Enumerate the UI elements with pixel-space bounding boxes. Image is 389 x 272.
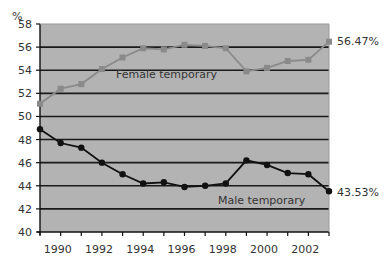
female-end-value: 56.47% (337, 35, 379, 48)
dot-marker-icon (99, 159, 105, 165)
x-axis-ticks: 1990199219941996199820002002 (40, 232, 329, 256)
dot-marker-icon (243, 157, 249, 163)
square-marker-icon (120, 55, 126, 61)
x-tick-label: 1990 (44, 243, 72, 256)
y-tick-label: 42 (18, 203, 32, 216)
square-marker-icon (182, 42, 188, 48)
square-marker-icon (140, 45, 146, 51)
y-tick-label: 50 (18, 110, 32, 123)
x-tick-label: 1998 (209, 243, 237, 256)
y-tick-label: 40 (18, 226, 32, 239)
dot-marker-icon (223, 180, 229, 186)
male-end-value: 43.53% (337, 186, 379, 199)
dot-marker-icon (161, 179, 167, 185)
y-tick-label: 48 (18, 134, 32, 147)
square-marker-icon (264, 65, 270, 71)
dot-marker-icon (181, 184, 187, 190)
y-tick-label: 46 (18, 157, 32, 170)
dot-marker-icon (305, 171, 311, 177)
y-tick-label: 44 (18, 180, 32, 193)
dot-marker-icon (57, 140, 63, 146)
x-tick-label: 1992 (85, 243, 113, 256)
y-tick-label: 52 (18, 87, 32, 100)
square-marker-icon (305, 57, 311, 63)
y-axis-ticks: 40424446485052545658 (18, 18, 40, 239)
square-marker-icon (161, 46, 167, 52)
y-tick-label: 54 (18, 64, 32, 77)
dot-marker-icon (119, 171, 125, 177)
dot-marker-icon (202, 183, 208, 189)
square-marker-icon (78, 81, 84, 87)
x-tick-label: 1996 (168, 243, 196, 256)
x-tick-label: 2000 (250, 243, 278, 256)
square-marker-icon (223, 45, 229, 51)
dot-marker-icon (264, 162, 270, 168)
square-marker-icon (243, 68, 249, 74)
square-marker-icon (326, 39, 332, 45)
dot-marker-icon (140, 180, 146, 186)
dot-marker-icon (285, 170, 291, 176)
dot-marker-icon (37, 126, 43, 132)
square-marker-icon (99, 66, 105, 72)
line-chart: 40424446485052545658 1990199219941996199… (0, 0, 389, 272)
square-marker-icon (202, 43, 208, 49)
y-axis-unit: % (12, 10, 22, 23)
female-series-label: Female temporary (116, 68, 218, 81)
dot-marker-icon (78, 144, 84, 150)
square-marker-icon (285, 58, 291, 64)
x-tick-label: 1994 (126, 243, 154, 256)
dot-marker-icon (326, 188, 332, 194)
square-marker-icon (37, 101, 43, 107)
y-tick-label: 56 (18, 41, 32, 54)
male-series-label: Male temporary (218, 194, 306, 207)
square-marker-icon (58, 86, 64, 92)
x-tick-label: 2002 (291, 243, 319, 256)
